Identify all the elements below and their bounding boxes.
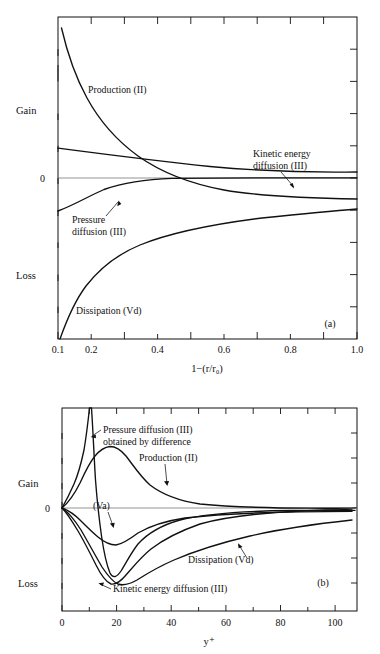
panel-b-xtick-5: 100 (328, 617, 343, 628)
chart-panel-b: Gain 0 Loss 0 20 40 60 80 100 y⁺ Pressur… (0, 390, 380, 654)
panel-a-x-axis-title: 1−(r/r₀) (191, 363, 223, 375)
panel-a-label-pressure-1: Pressure (72, 214, 106, 225)
panel-b-x-axis-title: y⁺ (203, 636, 214, 647)
panel-b-curve-production (62, 447, 356, 509)
panel-b-xtick-0: 0 (60, 617, 65, 628)
panel-b-x-ticks-top (89, 408, 335, 414)
panel-b-label-pressure-2: obtained by difference (103, 436, 192, 447)
panel-b-label-pressure-1: Pressure diffusion (III) (103, 424, 193, 436)
panel-b-label-production: Production (II) (139, 452, 198, 464)
panel-b-label-va: (Va) (93, 500, 110, 512)
panel-a-arrow-pressure (117, 201, 121, 207)
panel-a-label-pressure-2: diffusion (III) (72, 226, 126, 238)
panel-a-label-production: Production (II) (88, 84, 147, 96)
panel-b-curve-dissipation (62, 508, 352, 585)
panel-b-arrow-production (164, 481, 169, 486)
panel-a-xtick-4: 0.8 (284, 344, 297, 355)
panel-a-zero-label: 0 (40, 173, 45, 184)
panel-a-arrow-ke-diffusion (290, 183, 294, 188)
panel-b-xtick-3: 60 (221, 617, 231, 628)
panel-a-xtick-1: 0.2 (85, 344, 98, 355)
panel-a-xtick-0: 0.1 (52, 344, 65, 355)
panel-b-loss-label: Loss (18, 578, 38, 589)
panel-a-leader-pressure (106, 202, 118, 216)
panel-b-arrow-va (110, 523, 115, 528)
panel-a-xtick-3: 0.6 (218, 344, 231, 355)
panel-a-tag: (a) (324, 318, 335, 330)
chart-panel-a: Gain 0 Loss 0.1 0.2 0.4 0.6 0.8 1.0 1−(r… (0, 0, 380, 390)
panel-a-svg: Gain 0 Loss 0.1 0.2 0.4 0.6 0.8 1.0 1−(r… (0, 0, 380, 390)
panel-a-label-dissipation: Dissipation (Vd) (76, 305, 142, 317)
panel-a-curve-production (62, 28, 358, 199)
panel-b-x-ticks (62, 605, 335, 611)
panel-b-curve-va (62, 508, 352, 545)
panel-a-curve-ke-diffusion (58, 148, 357, 172)
figure-container: Gain 0 Loss 0.1 0.2 0.4 0.6 0.8 1.0 1−(r… (0, 0, 380, 654)
panel-a-label-ke-diffusion-1: Kinetic energy (253, 148, 311, 159)
panel-b-zero-label: 0 (45, 503, 50, 514)
panel-b-label-dissipation: Dissipation (Vd) (188, 554, 254, 566)
panel-a-gain-label: Gain (16, 105, 37, 116)
panel-b-xtick-4: 80 (276, 617, 286, 628)
panel-a-label-ke-diffusion-2: diffusion (III) (253, 160, 307, 172)
panel-b-label-ke-diffusion: Kinetic energy diffusion (III) (113, 583, 227, 595)
panel-a-loss-label: Loss (16, 270, 36, 281)
panel-b-xtick-1: 20 (112, 617, 122, 628)
panel-b-xtick-2: 40 (166, 617, 176, 628)
panel-b-svg: Gain 0 Loss 0 20 40 60 80 100 y⁺ Pressur… (0, 390, 380, 654)
panel-a-xtick-5: 1.0 (351, 344, 364, 355)
panel-b-tag: (b) (317, 577, 329, 589)
panel-b-arrow-dissipation (238, 543, 243, 548)
panel-a-curve-pressure-diffusion (58, 178, 357, 211)
panel-a-xtick-2: 0.4 (151, 344, 164, 355)
panel-a-x-ticks (58, 332, 357, 339)
panel-b-gain-label: Gain (18, 478, 39, 489)
panel-b-leader-production (165, 464, 167, 484)
panel-a-x-ticks-top (91, 17, 323, 24)
